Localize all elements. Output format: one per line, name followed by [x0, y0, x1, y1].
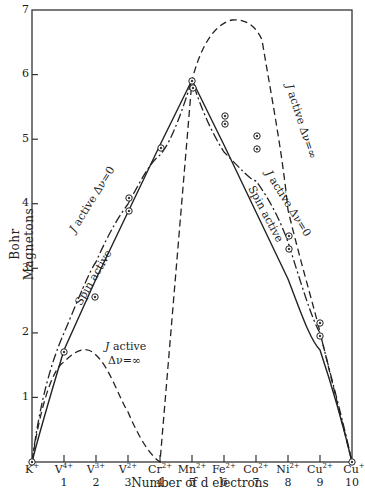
label-text: active [109, 340, 146, 353]
ion-charge: 4+ [63, 462, 73, 470]
x-tick-number-10: 10 [342, 476, 362, 489]
ion-label-v4: V4+ [47, 463, 81, 476]
ion-base: V [119, 463, 127, 476]
label-text: Δν=∞ [108, 354, 141, 367]
ion-charge: 2+ [289, 462, 299, 470]
x-tick-number-1: 1 [54, 476, 74, 489]
y-tick-label-1: 1 [17, 390, 29, 403]
ion-charge: + [359, 462, 365, 470]
ion-base: Fe [212, 463, 226, 476]
ion-base: V [55, 463, 63, 476]
ion-charge: 3+ [95, 462, 105, 470]
ion-charge: 2+ [258, 462, 268, 470]
ion-label-ni2: Ni2+ [271, 463, 305, 476]
x-tick-number-9: 9 [310, 476, 330, 489]
ion-base: Cu [343, 463, 359, 476]
ion-base: Ni [276, 463, 289, 476]
ion-charge: 2+ [323, 462, 333, 470]
x-tick-number-5: 5 [182, 476, 202, 489]
ion-label-v3: V3+ [79, 463, 113, 476]
y-tick-label-4: 4 [17, 196, 29, 209]
y-tick-label-5: 5 [17, 132, 29, 145]
ion-charge: 2+ [226, 462, 236, 470]
x-tick-number-6: 6 [214, 476, 234, 489]
ion-label-fe2: Fe2+ [207, 463, 241, 476]
ion-base: Co [243, 463, 258, 476]
y-tick-label-2: 2 [17, 325, 29, 338]
ion-label-cu1: Cu+ [337, 463, 365, 476]
label-hump-j-active: J active [105, 340, 146, 353]
ion-label-cu2: Cu2+ [303, 463, 337, 476]
ion-label-mn2: Mn2+ [175, 463, 209, 476]
magneton-chart [0, 0, 365, 491]
ion-charge: 2+ [127, 462, 137, 470]
y-tick-label-7: 7 [17, 3, 29, 16]
x-tick-number-3: 3 [118, 476, 138, 489]
x-tick-number-8: 8 [278, 476, 298, 489]
label-hump-dnu-inf: Δν=∞ [108, 354, 141, 367]
y-tick-label-6: 6 [17, 67, 29, 80]
y-tick-label-3: 3 [17, 261, 29, 274]
ion-base: Cu [307, 463, 323, 476]
ion-base: K [25, 463, 33, 476]
x-tick-number-4: 4 [150, 476, 170, 489]
ion-charge: + [33, 462, 39, 470]
ion-label-k: K+ [15, 463, 49, 476]
x-tick-number-7: 7 [246, 476, 266, 489]
ion-charge: 2+ [162, 462, 172, 470]
x-ticks [64, 455, 320, 462]
ion-label-cr2: Cr2+ [143, 463, 177, 476]
ion-base: Cr [148, 463, 162, 476]
ion-label-v2: V2+ [111, 463, 145, 476]
y-axis-title: Bohr Magnetons [8, 194, 36, 294]
x-tick-number-2: 2 [86, 476, 106, 489]
ion-charge: 2+ [196, 462, 206, 470]
ion-base: V [87, 463, 95, 476]
ion-label-co2: Co2+ [239, 463, 273, 476]
ion-base: Mn [178, 463, 196, 476]
